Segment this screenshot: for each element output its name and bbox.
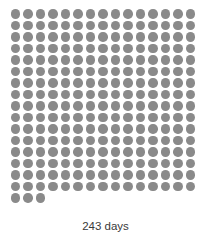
unit-dot <box>123 136 133 146</box>
dot-cell <box>97 181 110 193</box>
unit-dot <box>73 21 83 31</box>
dot-cell <box>72 8 85 20</box>
dot-cell <box>84 158 97 170</box>
dot-cell <box>22 100 35 112</box>
dot-cell <box>147 31 160 43</box>
unit-dot <box>73 170 83 180</box>
unit-dot <box>161 9 171 19</box>
dot-cell <box>34 31 47 43</box>
dot-cell <box>47 169 60 181</box>
unit-dot <box>123 78 133 88</box>
unit-dot <box>23 67 33 77</box>
unit-dot <box>148 136 158 146</box>
unit-dot <box>186 147 196 157</box>
unit-dot <box>148 67 158 77</box>
dot-cell <box>134 135 147 147</box>
unit-dot <box>98 32 108 42</box>
unit-dot <box>123 44 133 54</box>
dot-cell <box>47 54 60 66</box>
unit-dot <box>148 32 158 42</box>
unit-dot <box>98 147 108 157</box>
unit-dot <box>173 67 183 77</box>
dot-cell <box>147 8 160 20</box>
unit-dot <box>161 113 171 123</box>
dot-cell <box>159 181 172 193</box>
unit-dot <box>11 44 21 54</box>
dot-cell <box>147 77 160 89</box>
unit-dot <box>173 113 183 123</box>
unit-dot <box>11 101 21 111</box>
dot-cell <box>184 20 197 32</box>
unit-dot <box>11 170 21 180</box>
unit-dot <box>186 101 196 111</box>
unit-dot <box>86 182 96 192</box>
unit-dot <box>73 182 83 192</box>
unit-dot <box>161 32 171 42</box>
dot-cell <box>109 181 122 193</box>
unit-dot <box>123 170 133 180</box>
unit-dot <box>161 159 171 169</box>
dot-cell <box>34 135 47 147</box>
dot-cell <box>59 77 72 89</box>
dot-cell <box>172 77 185 89</box>
unit-dot <box>11 124 21 134</box>
unit-dot <box>11 21 21 31</box>
dot-cell <box>47 8 60 20</box>
dot-cell <box>109 135 122 147</box>
unit-dot <box>186 170 196 180</box>
dot-cell <box>122 8 135 20</box>
dot-cell <box>159 100 172 112</box>
dot-cell <box>34 66 47 78</box>
dot-cell <box>172 135 185 147</box>
unit-dot <box>11 90 21 100</box>
dot-cell <box>72 77 85 89</box>
dot-cell <box>97 8 110 20</box>
dot-cell <box>184 181 197 193</box>
dot-cell <box>84 89 97 101</box>
unit-dot <box>48 55 58 65</box>
unit-dot <box>98 78 108 88</box>
dot-cell <box>122 146 135 158</box>
dot-cell <box>134 8 147 20</box>
dot-cell <box>147 20 160 32</box>
dot-cell <box>84 54 97 66</box>
dot-cell <box>9 192 22 204</box>
dot-cell <box>159 123 172 135</box>
unit-dot <box>98 159 108 169</box>
dot-cell <box>34 89 47 101</box>
unit-dot <box>23 90 33 100</box>
dot-cell <box>97 89 110 101</box>
unit-dot <box>61 67 71 77</box>
unit-dot <box>11 9 21 19</box>
dot-cell <box>172 112 185 124</box>
unit-dot <box>186 159 196 169</box>
dot-cell <box>97 100 110 112</box>
unit-dot <box>61 147 71 157</box>
unit-dot <box>136 55 146 65</box>
dot-cell <box>59 123 72 135</box>
unit-dot <box>123 159 133 169</box>
unit-dot <box>73 113 83 123</box>
unit-dot <box>48 32 58 42</box>
dot-cell <box>84 112 97 124</box>
dot-cell <box>159 77 172 89</box>
dot-cell <box>109 89 122 101</box>
dot-cell <box>59 112 72 124</box>
unit-dot <box>148 9 158 19</box>
dot-cell <box>147 181 160 193</box>
dot-cell <box>147 54 160 66</box>
dot-cell <box>184 77 197 89</box>
unit-dot <box>23 21 33 31</box>
dot-cell <box>59 8 72 20</box>
unit-dot <box>148 124 158 134</box>
unit-dot <box>48 147 58 157</box>
unit-dot <box>36 21 46 31</box>
dot-cell <box>9 77 22 89</box>
unit-dot <box>23 136 33 146</box>
unit-dot <box>61 136 71 146</box>
unit-dot <box>48 159 58 169</box>
dot-cell <box>97 66 110 78</box>
dot-cell <box>122 100 135 112</box>
dot-cell <box>159 8 172 20</box>
unit-dot <box>161 136 171 146</box>
